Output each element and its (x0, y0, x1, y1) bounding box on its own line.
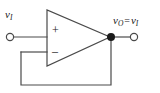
output-voltage-label: vO=vI (113, 15, 138, 26)
noninverting-input-sign: + (52, 24, 59, 36)
wire-feedback-loop (21, 37, 111, 85)
junction-dot (107, 33, 115, 41)
circuit-diagram-figure: + – vI vO=vI (0, 0, 160, 93)
output-voltage-subscript: O (118, 19, 123, 28)
schematic-svg (0, 0, 160, 93)
input-voltage-label: vI (5, 9, 12, 20)
output-voltage-subscript-2: I (136, 19, 139, 28)
equals-sign: = (123, 15, 131, 26)
terminal-input-circle (6, 33, 13, 40)
inverting-input-sign: – (52, 45, 58, 57)
terminal-output-circle (130, 33, 137, 40)
